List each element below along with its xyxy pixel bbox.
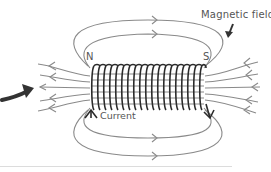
current-label: Current <box>100 110 136 121</box>
field-lines <box>38 20 260 156</box>
divider <box>0 166 232 167</box>
magnetic-field-label: Magnetic field <box>201 9 271 20</box>
north-pole-label: N <box>86 51 93 62</box>
diagram-canvas <box>0 0 271 172</box>
magnetic-field-pointer-icon <box>225 24 233 38</box>
south-pole-label: S <box>203 51 209 62</box>
pointer-arrow-icon <box>2 84 34 100</box>
coil <box>92 65 206 111</box>
